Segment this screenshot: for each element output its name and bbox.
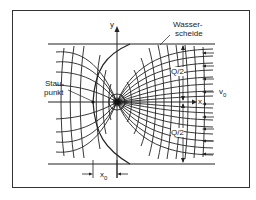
velocity-subscript: 0 bbox=[223, 92, 226, 98]
flow-net-diagram bbox=[0, 0, 256, 200]
watershed-label-1: Wasser- bbox=[173, 20, 202, 29]
lower-half-flow-label: Q/2 bbox=[171, 128, 184, 137]
upper-half-flow-label: Q/2 bbox=[171, 67, 184, 76]
x-axis-label: x bbox=[198, 97, 202, 106]
well-point bbox=[114, 99, 120, 105]
streamlines bbox=[56, 44, 213, 164]
x0-label: x0 bbox=[100, 170, 107, 183]
velocity-label: v0 bbox=[219, 87, 226, 100]
stagnation-label-2: punkt bbox=[44, 88, 64, 97]
y-axis-arrow-icon bbox=[115, 26, 120, 32]
stagnation-label-1: Stau- bbox=[45, 79, 64, 88]
watershed-label-2: scheide bbox=[175, 29, 203, 38]
x0-subscript: 0 bbox=[104, 175, 107, 181]
y-axis-label: y bbox=[110, 20, 114, 29]
